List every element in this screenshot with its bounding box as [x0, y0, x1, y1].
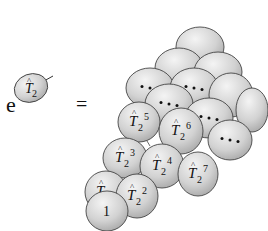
- ellipse-cluster: T^25T^26T^23T^24T^27T^2T^221: [85, 27, 268, 231]
- equals-sign: =: [76, 93, 87, 115]
- svg-text:2: 2: [180, 131, 185, 142]
- svg-text:4: 4: [167, 155, 172, 166]
- svg-text:2: 2: [161, 166, 166, 177]
- svg-text:2: 2: [136, 196, 141, 207]
- ellipsis-node: [208, 120, 252, 160]
- svg-text:2: 2: [124, 158, 129, 169]
- lhs-label-sub: 2: [32, 88, 37, 99]
- operator-node: T^27: [178, 152, 218, 196]
- svg-text:2: 2: [142, 185, 147, 196]
- svg-text:5: 5: [144, 111, 149, 122]
- svg-text:2: 2: [138, 122, 143, 133]
- lhs-prefix-e: e: [6, 92, 16, 117]
- svg-text:6: 6: [186, 120, 191, 131]
- unit-node: 1: [86, 191, 128, 231]
- svg-text:2: 2: [197, 174, 202, 185]
- diagram-canvas: T 2 ^ e = T^25T^26T^23T^24T^27T^2T^221: [0, 0, 268, 231]
- svg-text:3: 3: [130, 147, 135, 158]
- svg-text:7: 7: [203, 163, 208, 174]
- svg-text:1: 1: [103, 204, 110, 219]
- lhs-group: T 2 ^ e =: [6, 69, 87, 117]
- operator-node: T^25: [118, 102, 160, 142]
